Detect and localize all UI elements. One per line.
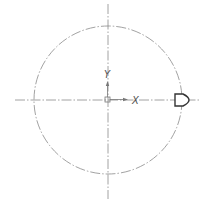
- ucs-origin-box: [105, 97, 110, 102]
- d-shape-marker-icon[interactable]: [175, 94, 189, 106]
- ucs-x-label: X: [131, 95, 140, 106]
- ucs-icon: X Y: [104, 69, 140, 106]
- cad-viewport: X Y: [0, 0, 211, 205]
- ucs-y-label: Y: [104, 69, 111, 80]
- ucs-y-arrowhead-icon: [106, 81, 109, 86]
- ucs-x-arrowhead-icon: [123, 98, 128, 101]
